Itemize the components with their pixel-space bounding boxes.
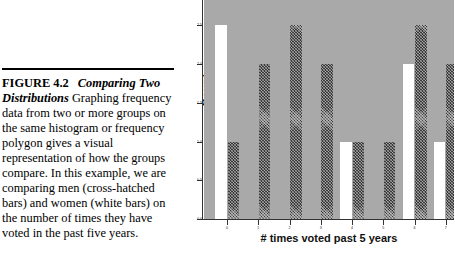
y-tick-label: 1.5 xyxy=(162,101,202,105)
bar-men-0 xyxy=(228,142,240,219)
bar-men-5 xyxy=(384,142,396,219)
x-axis-label: # times voted past 5 years xyxy=(204,232,454,244)
x-tick xyxy=(227,220,228,225)
x-tick xyxy=(383,220,384,225)
bar-men-4 xyxy=(353,142,365,219)
x-tick xyxy=(290,220,291,225)
bar-men-6 xyxy=(415,25,427,219)
bar-women-7 xyxy=(434,142,446,219)
bar-women-6 xyxy=(403,64,415,219)
caption-divider xyxy=(2,68,174,70)
bar-chart: Count 0.00.51.01.52.02.5 01234567 # time… xyxy=(196,0,455,257)
x-tick xyxy=(258,220,259,225)
y-tick-label: 2.0 xyxy=(162,62,202,66)
bar-women-0 xyxy=(215,25,227,219)
bar-women-4 xyxy=(340,142,352,219)
bar-men-1 xyxy=(259,64,271,219)
x-tick-label: 2 xyxy=(285,226,295,230)
x-tick xyxy=(352,220,353,225)
plot-area xyxy=(204,0,454,219)
y-tick-label: 0.0 xyxy=(162,217,202,221)
x-tick-label: 4 xyxy=(347,226,357,230)
y-tick-label: 2.5 xyxy=(162,23,202,27)
x-tick-label: 5 xyxy=(378,226,388,230)
bar-men-2 xyxy=(290,25,302,219)
caption-paragraph: FIGURE 4.2Comparing Two Distributions Gr… xyxy=(2,76,178,241)
x-tick xyxy=(446,220,447,225)
x-tick xyxy=(415,220,416,225)
bar-men-3 xyxy=(321,64,333,219)
bar-men-7 xyxy=(446,64,454,219)
figure-body-text: Graphing frequency data from two or more… xyxy=(2,91,171,240)
y-tick-label: 0.5 xyxy=(162,178,202,182)
y-axis-line xyxy=(202,0,203,220)
x-tick-label: 3 xyxy=(316,226,326,230)
figure-panel: FIGURE 4.2Comparing Two Distributions Gr… xyxy=(0,0,455,257)
figure-number: FIGURE 4.2 xyxy=(2,76,69,90)
x-tick-label: 0 xyxy=(222,226,232,230)
x-tick-label: 7 xyxy=(441,226,451,230)
y-tick-label: 1.0 xyxy=(162,140,202,144)
x-tick-label: 1 xyxy=(253,226,263,230)
x-tick-label: 6 xyxy=(410,226,420,230)
x-axis-line xyxy=(202,219,454,220)
x-tick xyxy=(321,220,322,225)
figure-caption: FIGURE 4.2Comparing Two Distributions Gr… xyxy=(0,68,180,241)
